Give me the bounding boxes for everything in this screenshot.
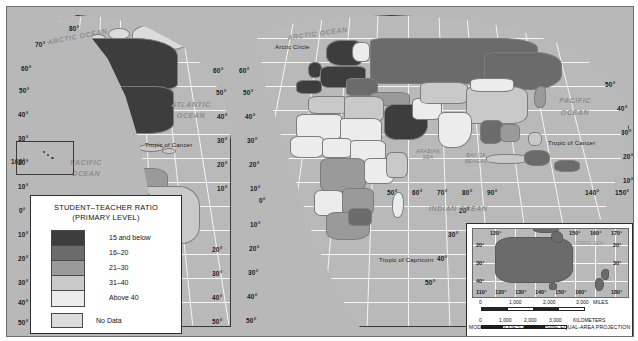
sea-label-coral: CORAL SEA (575, 241, 603, 246)
inset-lon-bottom-1: 120° (495, 289, 506, 295)
scale-km-tick-2: 2,000 (524, 317, 537, 323)
australia-landmass (495, 237, 573, 283)
legend-row-0: 15 and below (96, 230, 181, 245)
lat-tick-left-7: 10° (18, 183, 28, 190)
lat-tick-left-1: 70° (35, 41, 45, 48)
inset-lon-bottom-4: 150° (555, 289, 566, 295)
lat-tick-right-3: 20° (623, 153, 633, 160)
legend-label-3: 31–40 (109, 279, 128, 286)
scale-km-tick-1: 1,000 (499, 317, 512, 323)
hawaii-inset-box (16, 141, 74, 175)
lat-tick-afroeurasia-1: 50° (243, 89, 253, 96)
reference-label-arctic-circle: Arctic Circle (275, 44, 310, 50)
inset-lat-right-1: 30° (613, 260, 621, 266)
legend-swatch-2 (52, 261, 84, 276)
inset-lat-left-1: 30° (476, 260, 484, 266)
inset-lat-right-0: 20° (613, 242, 621, 248)
lat-tick-right-6: 30° (448, 231, 458, 238)
ocean-label-indian: INDIAN OCEAN (429, 205, 488, 212)
legend-title-line1: STUDENT–TEACHER RATIO (31, 203, 181, 213)
lat-tick-americas-8: 40° (212, 294, 222, 301)
lon-tick-4: 90° (487, 189, 497, 196)
lat-tick-afroeurasia-9: 30° (248, 269, 258, 276)
lon-tick-5: 140° (585, 189, 599, 196)
legend-swatch-3 (52, 276, 84, 291)
legend-row-2: 21–30 (96, 260, 181, 275)
lat-tick-americas-7: 30° (212, 270, 222, 277)
sea-label-arabian: ARABIAN SEA (414, 148, 442, 160)
lat-tick-right-7: 40° (437, 255, 447, 262)
legend-swatch-nodata (51, 313, 83, 328)
australia-inset-map: CORAL SEA 120° 150° 160° 170° 20° 30° 40… (472, 228, 629, 298)
lat-tick-americas-0: 60° (213, 67, 223, 74)
legend-swatch-4 (52, 291, 84, 306)
scale-miles-tick-1: 1,000 (509, 299, 522, 305)
lat-tick-americas-1: 50° (216, 89, 226, 96)
legend-label-2: 21–30 (109, 264, 128, 271)
lat-tick-left-2: 60° (21, 65, 31, 72)
legend-label-4: Above 40 (109, 294, 139, 301)
inset-lon-bottom-3: 140° (535, 289, 546, 295)
lon-tick-6: 150° (615, 189, 629, 196)
legend-swatch-stack (51, 230, 85, 307)
ocean-label-atlantic: ATLANTIC OCEAN (169, 99, 213, 121)
scale-bar-miles: 0 1,000 2,000 3,000 MILES (477, 300, 627, 309)
map-frame: 160° 80° 70° 60° 50° 40° 30° 20° 10° 0° … (6, 6, 634, 337)
new-zealand-south (595, 278, 604, 291)
scale-miles-tick-0: 0 (479, 299, 482, 305)
lat-tick-left-3: 50° (19, 87, 29, 94)
lat-tick-right-1: 40° (617, 105, 627, 112)
lat-tick-afroeurasia-2: 40° (245, 113, 255, 120)
lat-tick-afroeurasia-3: 30° (247, 137, 257, 144)
legend-swatch-1 (52, 246, 84, 261)
inset-lon-top-2: 160° (590, 230, 601, 236)
inset-lat-left-2: 40° (476, 278, 484, 284)
lat-tick-left-13: 50° (18, 319, 28, 326)
lat-tick-afroeurasia-10: 40° (247, 293, 257, 300)
world-map-figure: 160° 80° 70° 60° 50° 40° 30° 20° 10° 0° … (0, 0, 638, 341)
scale-km-tick-0: 0 (479, 317, 482, 323)
legend-label-0: 15 and below (109, 234, 151, 241)
inset-lon-bottom-5: 160° (575, 289, 586, 295)
scale-bars: 0 1,000 2,000 3,000 MILES 0 1,000 2,0 (477, 300, 627, 327)
legend-title-line2: (PRIMARY LEVEL) (31, 213, 181, 223)
sea-label-bay-of-bengal: BAY OF BENGAL (462, 152, 490, 164)
lat-tick-afroeurasia-8: 20° (249, 245, 259, 252)
lat-tick-right-8: 50° (425, 279, 435, 286)
scale-miles-unit: MILES (593, 299, 608, 305)
lat-tick-afroeurasia-5: 10° (250, 185, 260, 192)
inset-lon-bottom-0: 110° (476, 289, 487, 295)
lat-tick-afroeurasia-7: 10° (250, 221, 260, 228)
lat-tick-afroeurasia-11: 50° (246, 317, 256, 324)
scale-km-tick-3: 3,000 (549, 317, 562, 323)
inset-lon-top-0: 120° (490, 230, 501, 236)
reference-label-tropic-cancer-right: Tropic of Cancer (548, 140, 595, 146)
lon-tick-0: 50° (387, 189, 397, 196)
legend-label-1: 16–20 (109, 249, 128, 256)
map-legend: STUDENT–TEACHER RATIO (PRIMARY LEVEL) 15… (30, 195, 182, 334)
inset-lat-left-0: 20° (476, 242, 484, 248)
lon-tick-3: 80° (462, 189, 472, 196)
lat-tick-right-2: 30° (621, 129, 631, 136)
new-guinea-fragment (533, 228, 559, 233)
legend-row-1: 16–20 (96, 245, 181, 260)
inset-lon-top-1: 150° (569, 230, 580, 236)
lat-tick-americas-3: 30° (217, 137, 227, 144)
lat-tick-left-12: 40° (18, 299, 28, 306)
projection-note: MODIFIED GOODE'S HOMOLOSINE EQUAL-AREA P… (467, 324, 632, 330)
lat-tick-right-0: 50° (605, 81, 615, 88)
cape-york (551, 231, 563, 243)
inset-lon-bottom-6: 180° (611, 289, 622, 295)
lat-tick-afroeurasia-4: 20° (249, 161, 259, 168)
lat-tick-afroeurasia-6: 0° (259, 197, 266, 204)
lat-tick-americas-9: 50° (212, 318, 222, 325)
australia-inset-panel: CORAL SEA 120° 150° 160° 170° 20° 30° 40… (466, 223, 633, 337)
lat-tick-left-0: 80° (69, 25, 79, 32)
reference-label-tropic-cancer-left: Tropic of Cancer (145, 142, 192, 148)
ocean-label-pacific-right: PACIFIC OCEAN (553, 95, 597, 119)
lat-tick-americas-5: 10° (217, 185, 227, 192)
lat-tick-left-9: 10° (18, 231, 28, 238)
legend-title: STUDENT–TEACHER RATIO (PRIMARY LEVEL) (31, 203, 181, 223)
lat-tick-right-4: 10° (623, 177, 633, 184)
scale-miles-tick-2: 2,000 (543, 299, 556, 305)
